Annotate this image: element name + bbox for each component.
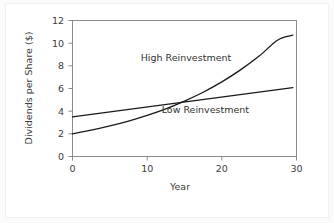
- y-tick-label-6: 6: [58, 83, 64, 94]
- x-tick-label-30: 30: [290, 163, 302, 174]
- y-tick-label-8: 8: [58, 60, 64, 71]
- series-label-high-reinvestment: High Reinvestment: [141, 52, 232, 63]
- x-tick-label-0: 0: [69, 163, 75, 174]
- y-axis-tick-labels: 0 2 4 6 8 10 12: [52, 15, 64, 162]
- x-tick-label-10: 10: [141, 163, 153, 174]
- plot-frame: [73, 21, 297, 157]
- y-tick-label-10: 10: [52, 38, 64, 49]
- series-line-high-reinvestment: [73, 35, 293, 134]
- y-tick-label-4: 4: [58, 106, 64, 117]
- figure-root: 0 2 4 6 8 10 12 0 10 20 30 Year Dividend…: [0, 0, 334, 223]
- y-tick-label-0: 0: [58, 151, 64, 162]
- x-axis-tick-labels: 0 10 20 30: [69, 163, 302, 174]
- x-tick-label-20: 20: [216, 163, 228, 174]
- dividends-per-share-chart: 0 2 4 6 8 10 12 0 10 20 30 Year Dividend…: [0, 0, 334, 223]
- y-axis-title: Dividends per Share ($): [23, 32, 34, 145]
- y-tick-label-12: 12: [52, 15, 64, 26]
- series-label-low-reinvestment: Low Reinvestment: [162, 104, 250, 115]
- y-tick-label-2: 2: [58, 128, 64, 139]
- x-axis-ticks: [73, 157, 297, 161]
- data-series-group: [73, 35, 293, 134]
- x-axis-title: Year: [169, 181, 190, 192]
- y-axis-ticks: [69, 21, 73, 157]
